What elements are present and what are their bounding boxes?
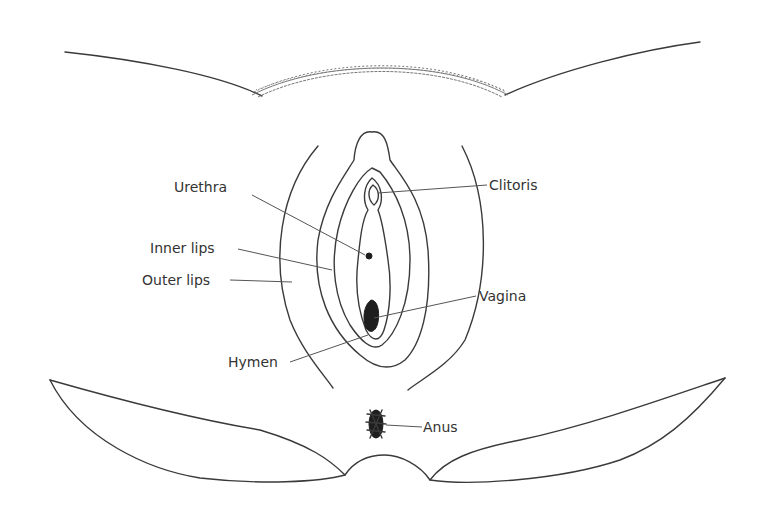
outer-lips-left-contour bbox=[280, 146, 333, 388]
anus-leader bbox=[386, 425, 422, 427]
inner-lips-leader bbox=[238, 249, 332, 270]
hymen-leader bbox=[290, 335, 368, 362]
urethra-leader bbox=[252, 195, 365, 255]
clitoris-leader bbox=[378, 185, 487, 193]
label-urethra: Urethra bbox=[174, 179, 227, 195]
label-anus: Anus bbox=[423, 419, 458, 435]
anus-shape bbox=[366, 410, 386, 438]
upper-right-contour bbox=[505, 42, 700, 95]
outer-lips-leader bbox=[230, 280, 292, 282]
vulva-outer-ring bbox=[317, 132, 429, 367]
label-outer-lips: Outer lips bbox=[142, 272, 210, 288]
label-clitoris: Clitoris bbox=[489, 177, 538, 193]
lower-left-curve bbox=[50, 380, 345, 482]
anatomy-diagram: Urethra Inner lips Outer lips Hymen Clit… bbox=[0, 0, 760, 518]
label-inner-lips: Inner lips bbox=[150, 240, 215, 256]
clitoris-shape bbox=[369, 185, 378, 205]
outer-lips-right-contour bbox=[408, 146, 483, 390]
label-hymen: Hymen bbox=[228, 354, 278, 370]
label-vagina: Vagina bbox=[479, 288, 526, 304]
urethra-opening bbox=[366, 253, 372, 259]
upper-left-contour bbox=[65, 52, 262, 96]
pubic-hair bbox=[252, 66, 508, 97]
vaginal-opening bbox=[364, 300, 379, 331]
